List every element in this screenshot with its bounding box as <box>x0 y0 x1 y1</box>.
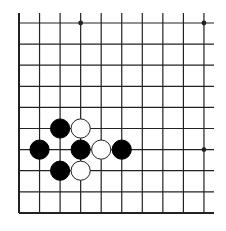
go-board <box>0 0 226 231</box>
black-stone <box>51 119 70 138</box>
black-stone <box>30 140 49 159</box>
black-stone <box>112 140 131 159</box>
star-point-icon <box>78 21 83 26</box>
black-stone <box>51 161 70 180</box>
star-point-icon <box>202 21 207 26</box>
white-stone <box>92 140 111 159</box>
star-point-icon <box>202 147 207 152</box>
white-stone <box>71 119 90 138</box>
white-stone <box>71 161 90 180</box>
board-grid <box>19 13 214 213</box>
black-stone <box>71 140 90 159</box>
